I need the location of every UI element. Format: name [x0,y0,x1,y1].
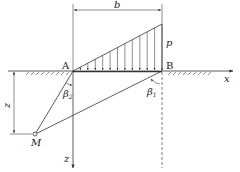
point-m-label: M [30,137,42,148]
angle-beta-1: β1 [146,79,160,98]
ground-surface: x A B [8,60,233,84]
angle-beta-2: β2 [62,83,73,100]
point-b-label: B [166,60,173,71]
angle-beta-1-label: β1 [146,86,157,98]
point-a-label: A [61,60,70,71]
depth-dimension: z [1,72,32,134]
z-axis-label: z [63,153,70,164]
ground-hatching [26,72,211,75]
x-axis-label: x [224,73,230,84]
rays-to-m: M [30,71,162,148]
width-label: b [114,0,120,10]
point-m-marker [33,132,37,136]
load-label: p [166,37,173,48]
triangular-load: p [73,24,173,71]
depth-label: z [1,102,12,109]
angle-beta-2-label: β2 [62,88,73,100]
stress-diagram: b p x A B [0,0,240,172]
